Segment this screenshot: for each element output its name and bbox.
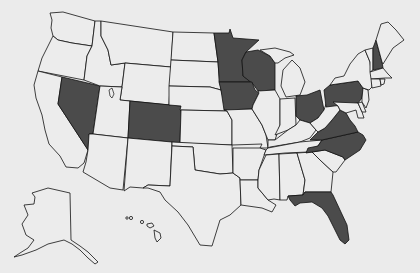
us-map: [0, 0, 420, 273]
state-wyoming[interactable]: [120, 63, 171, 105]
state-kansas[interactable]: [180, 110, 232, 145]
state-rhode-island[interactable]: [380, 79, 385, 85]
state-colorado[interactable]: [128, 101, 181, 143]
state-connecticut[interactable]: [371, 79, 381, 88]
state-south-dakota[interactable]: [169, 60, 221, 90]
state-north-dakota[interactable]: [171, 32, 218, 62]
state-new-mexico[interactable]: [124, 138, 172, 191]
